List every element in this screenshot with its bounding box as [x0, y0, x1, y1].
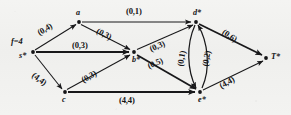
node-t[interactable] [264, 56, 268, 60]
node-b[interactable] [132, 50, 136, 54]
graph-canvas [0, 0, 291, 115]
node-label-c: c [62, 96, 66, 104]
flow-network-diagram: f=4 s* a b* c d* e* T* (0,4) (0,3) (4,4)… [0, 0, 291, 115]
node-label-s: s* [19, 52, 26, 60]
node-label-e: e* [198, 96, 206, 104]
node-a[interactable] [77, 20, 81, 24]
flow-value-label: f=4 [11, 38, 23, 46]
node-label-b: b* [132, 56, 140, 64]
node-s[interactable] [31, 50, 35, 54]
node-c[interactable] [63, 90, 67, 94]
node-label-t: T* [271, 53, 280, 61]
node-label-d: d* [193, 9, 201, 17]
edge-d-e [189, 25, 196, 88]
edge-label-c-e: (4,4) [119, 96, 135, 105]
edge-label-s-b: (0,3) [72, 41, 88, 50]
node-e[interactable] [198, 90, 202, 94]
edge-e-t [203, 61, 263, 90]
edge-c-b [67, 55, 130, 90]
node-d[interactable] [194, 20, 198, 24]
node-label-a: a [76, 9, 80, 17]
edge-label-a-d: (0,1) [126, 7, 142, 16]
